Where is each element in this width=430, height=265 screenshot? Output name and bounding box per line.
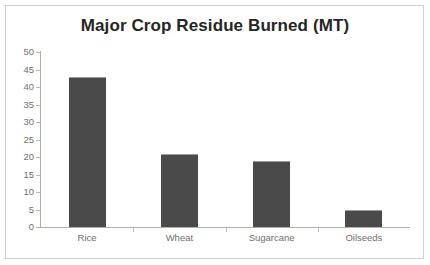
- y-axis-tick-label: 15: [23, 169, 34, 180]
- x-axis-label-rice: Rice: [41, 232, 133, 243]
- y-axis-tick-label: 35: [23, 99, 34, 110]
- y-axis-tick-label: 45: [23, 64, 34, 75]
- bar-rice[interactable]: [69, 77, 106, 228]
- y-axis-tick-label: 0: [29, 221, 34, 232]
- x-axis-label-oilseeds: Oilseeds: [318, 232, 410, 243]
- y-axis-tick-label: 40: [23, 81, 34, 92]
- x-axis-label-wheat: Wheat: [133, 232, 225, 243]
- y-axis-tick-label: 5: [29, 204, 34, 215]
- y-axis-tick-label: 10: [23, 186, 34, 197]
- x-axis-label-sugarcane: Sugarcane: [226, 232, 318, 243]
- bar-wheat[interactable]: [161, 154, 198, 228]
- y-axis-tick-label: 50: [23, 46, 34, 57]
- y-axis-tick-label: 20: [23, 151, 34, 162]
- bar-oilseeds[interactable]: [345, 210, 382, 228]
- y-axis-tick-label: 25: [23, 134, 34, 145]
- y-axis-tick-label: 30: [23, 116, 34, 127]
- plot-area: [41, 52, 410, 227]
- chart-figure: Major Crop Residue Burned (MT) 504540353…: [0, 0, 430, 265]
- chart-title: Major Crop Residue Burned (MT): [0, 16, 430, 36]
- bar-sugarcane[interactable]: [253, 161, 290, 228]
